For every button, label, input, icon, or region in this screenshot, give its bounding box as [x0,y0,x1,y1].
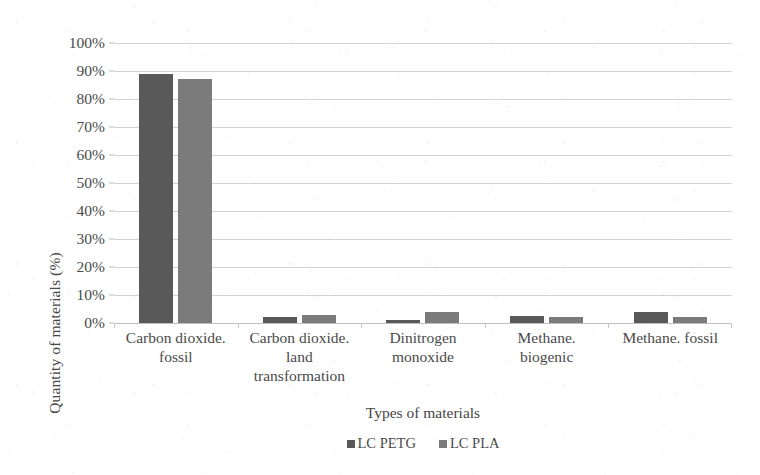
bar[interactable] [634,312,668,323]
bar[interactable] [510,316,544,323]
plot-area [114,43,732,323]
y-axis-tick-label: 60% [77,146,105,164]
bars-layer [114,43,732,323]
x-axis-category-label: Dinitrogenmonoxide [361,328,485,366]
bar[interactable] [139,74,173,323]
legend-swatch-icon [347,440,355,448]
bar-group [608,43,732,323]
bar[interactable] [178,79,212,323]
y-axis-tick-label: 50% [77,174,105,192]
chart-legend: LC PETGLC PLA [114,435,732,452]
x-axis-category-label: Carbon dioxide.fossil [114,328,238,366]
category-label-line: land [238,347,362,366]
x-axis-category-label: Methane. fossil [608,328,732,347]
category-label-line: biogenic [485,347,609,366]
y-axis-tick-label: 70% [77,118,105,136]
legend-label: LC PLA [450,435,500,452]
category-label-line: Carbon dioxide. [114,328,238,347]
y-axis-tick-label: 20% [77,258,105,276]
y-axis-tick-labels: 100%90%80%70%60%50%40%30%20%10%0% [58,43,114,323]
category-label-line: Dinitrogen [361,328,485,347]
y-axis-tick-label: 80% [77,90,105,108]
category-label-line: monoxide [361,347,485,366]
y-axis-tick-label: 0% [84,314,105,332]
bar-chart: Quantity of materials (%) 100%90%80%70%6… [0,0,760,475]
bar[interactable] [425,312,459,323]
x-axis-title: Types of materials [114,404,732,422]
category-label-line: Carbon dioxide. [238,328,362,347]
legend-label: LC PETG [358,435,416,452]
y-axis-tick-label: 10% [77,286,105,304]
y-axis-tick-label: 90% [77,62,105,80]
bar-group [114,43,238,323]
x-axis-category-label: Methane.biogenic [485,328,609,366]
x-axis-category-label: Carbon dioxide.landtransformation [238,328,362,385]
y-axis-tick-label: 40% [77,202,105,220]
legend-swatch-icon [439,440,447,448]
category-label-line: transformation [238,366,362,385]
bar[interactable] [302,315,336,323]
y-axis-tick-label: 100% [69,34,105,52]
legend-item[interactable]: LC PLA [439,435,500,452]
bar-group [361,43,485,323]
legend-item[interactable]: LC PETG [347,435,416,452]
category-label-line: Methane. [485,328,609,347]
bar-group [485,43,609,323]
category-label-line: Methane. fossil [608,328,732,347]
x-axis-category-labels: Carbon dioxide.fossilCarbon dioxide.land… [114,328,732,386]
y-axis-tick-label: 30% [77,230,105,248]
bar-group [238,43,362,323]
category-label-line: fossil [114,347,238,366]
